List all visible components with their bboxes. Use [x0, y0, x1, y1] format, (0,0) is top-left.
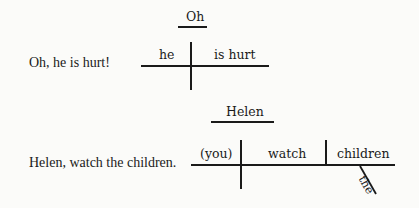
- modifier-diagonal-line: [0, 0, 419, 208]
